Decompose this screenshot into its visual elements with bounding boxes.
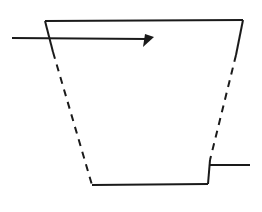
trapezoid-top-edge — [45, 20, 243, 21]
trapezoid-bottom-edge — [92, 184, 208, 185]
arrow-shaft-left — [12, 38, 147, 39]
diagram-canvas — [0, 0, 262, 212]
technical-line-drawing — [0, 0, 262, 212]
